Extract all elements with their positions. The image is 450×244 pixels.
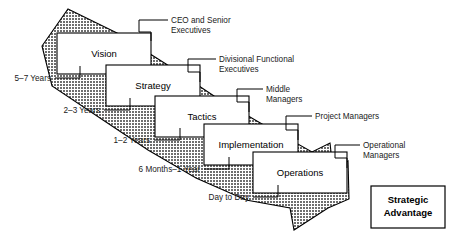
operational-role-label-line1: Operational	[363, 141, 406, 150]
outcome-box-strategic-advantage[interactable]: Strategic Advantage	[371, 186, 445, 228]
implementation-label: Implementation	[219, 139, 284, 150]
strategic-advantage-label-line1: Strategic	[388, 194, 429, 205]
middle-role-label-line1: Middle	[266, 85, 291, 94]
time-implementation-label: 6 Months–1 Year	[139, 165, 201, 174]
stage-box-operations[interactable]: Operations	[253, 152, 347, 193]
role-callout-ceo-senior-executives: CEO and Senior Executives	[139, 16, 231, 41]
time-tactics-label: 1–2 Years	[114, 136, 150, 145]
time-strategy-label: 2–3 Years	[64, 106, 100, 115]
divisional-role-label-line2: Executives	[219, 65, 259, 74]
time-vision-label: 5–7 Years	[15, 74, 51, 83]
vision-label: Vision	[91, 48, 117, 59]
ceo-role-label-line1: CEO and Senior	[171, 16, 231, 25]
operational-role-label-line2: Managers	[363, 151, 399, 160]
project-role-label-line1: Project Managers	[315, 112, 379, 121]
strategy-cascade-diagram: Vision Strategy Tactics Implementation O…	[0, 0, 450, 244]
role-callout-divisional-functional-executives: Divisional Functional Executives	[188, 55, 294, 82]
middle-role-label-line2: Managers	[266, 95, 302, 104]
time-operations-label: Day to Day	[209, 193, 250, 202]
diagram-canvas: Vision Strategy Tactics Implementation O…	[0, 0, 450, 244]
strategic-advantage-label-line2: Advantage	[384, 207, 433, 218]
tactics-label: Tactics	[187, 111, 216, 122]
role-callout-project-managers: Project Managers	[286, 112, 379, 140]
operations-label: Operations	[277, 167, 324, 178]
strategy-label: Strategy	[135, 80, 171, 91]
divisional-role-label-line1: Divisional Functional	[219, 55, 294, 64]
ceo-role-label-line2: Executives	[171, 26, 211, 35]
